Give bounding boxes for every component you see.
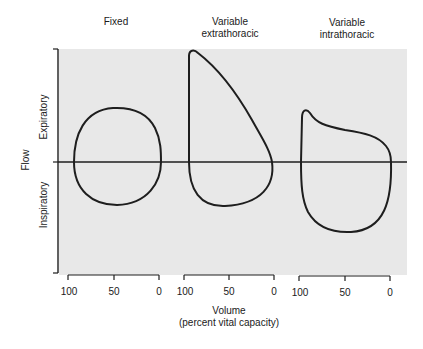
title-fixed: Fixed: [61, 16, 171, 28]
title-intrathoracic-line1: Variable: [292, 17, 402, 29]
flow-volume-loop-diagram: Fixed Variable extrathoracic Variable in…: [0, 0, 423, 349]
title-fixed-text: Fixed: [104, 16, 128, 27]
y-axis-label-expiratory: Expiratory: [38, 87, 50, 147]
tick-intra-100: 100: [288, 287, 312, 299]
tick-extra-100: 100: [173, 286, 197, 298]
tick-extra-50: 50: [217, 286, 241, 298]
x-scale-extrathoracic: [184, 275, 274, 280]
x-axis-label-volume: Volume: [129, 305, 329, 317]
tick-extra-0: 0: [262, 286, 286, 298]
title-intrathoracic: Variable intrathoracic: [292, 17, 402, 41]
tick-intra-50: 50: [333, 287, 357, 299]
x-scale-fixed: [68, 275, 159, 280]
title-extrathoracic-line1: Variable: [175, 16, 285, 28]
tick-fixed-100: 100: [57, 286, 81, 298]
tick-intra-0: 0: [378, 287, 402, 299]
tick-fixed-0: 0: [147, 286, 171, 298]
y-axis-label-inspiratory: Inspiratory: [38, 175, 50, 235]
x-axis-label-units: (percent vital capacity): [129, 317, 329, 329]
title-extrathoracic-line2: extrathoracic: [175, 28, 285, 40]
tick-fixed-50: 50: [102, 286, 126, 298]
title-intrathoracic-line2: intrathoracic: [292, 29, 402, 41]
x-scale-intrathoracic: [299, 276, 390, 281]
y-axis-label-flow: Flow: [20, 140, 32, 180]
title-extrathoracic: Variable extrathoracic: [175, 16, 285, 40]
x-axis-label: Volume (percent vital capacity): [129, 305, 329, 329]
